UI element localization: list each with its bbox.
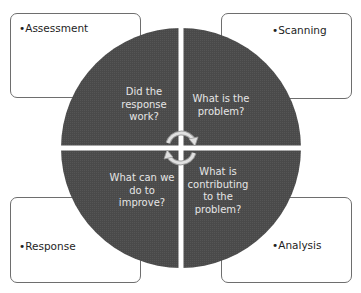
scanning-question: What is the problem? xyxy=(192,93,249,118)
cycle-circle xyxy=(0,0,361,293)
analysis-question: What is contributing to the problem? xyxy=(188,166,249,216)
response-question: What can we do to improve? xyxy=(110,172,175,210)
assessment-question: Did the response work? xyxy=(121,86,166,124)
horizontal-divider xyxy=(58,146,304,151)
